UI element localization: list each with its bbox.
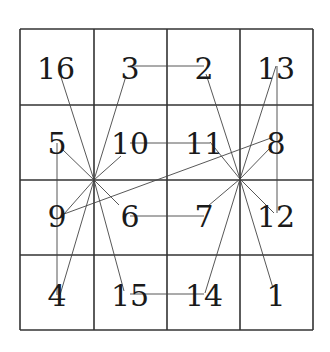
cell-number-12: 12 bbox=[257, 199, 295, 234]
connection-line-right-hub bbox=[205, 179, 240, 293]
cell-number-4: 4 bbox=[47, 278, 66, 313]
cell-number-10: 10 bbox=[111, 126, 149, 161]
cell-number-6: 6 bbox=[120, 199, 139, 234]
connection-line-left-hub bbox=[94, 180, 124, 291]
cell-number-15: 15 bbox=[111, 278, 149, 313]
cell-number-13: 13 bbox=[257, 51, 295, 86]
cell-number-5: 5 bbox=[47, 126, 66, 161]
cell-number-9: 9 bbox=[47, 199, 66, 234]
cell-number-3: 3 bbox=[120, 51, 139, 86]
cell-number-1: 1 bbox=[266, 278, 285, 313]
cell-number-7: 7 bbox=[194, 199, 213, 234]
cell-numbers: 16321351011896712415141 bbox=[37, 51, 295, 313]
magic-square-diagram: 16321351011896712415141 bbox=[0, 0, 330, 352]
cell-number-8: 8 bbox=[266, 126, 285, 161]
cell-number-16: 16 bbox=[37, 51, 75, 86]
cell-number-14: 14 bbox=[185, 278, 223, 313]
cell-number-2: 2 bbox=[194, 51, 213, 86]
cell-number-11: 11 bbox=[185, 126, 223, 161]
